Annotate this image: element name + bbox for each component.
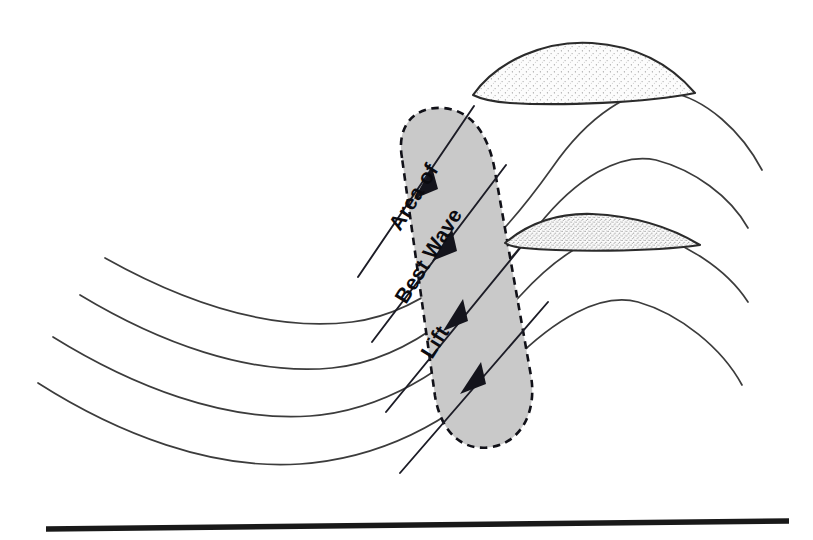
mountain-wave-diagram: Area of Best Wave Lift	[0, 0, 813, 540]
lower-cloud-shape	[505, 214, 700, 251]
ground-line	[46, 521, 789, 529]
diagram-canvas: Area of Best Wave Lift	[0, 0, 813, 540]
wave-streamline-4	[38, 300, 742, 465]
lower-lenticular-cloud	[505, 214, 700, 251]
upper-cloud-shape	[473, 43, 695, 104]
wave-streamline-3	[53, 231, 748, 417]
upper-lenticular-cloud	[473, 43, 695, 104]
